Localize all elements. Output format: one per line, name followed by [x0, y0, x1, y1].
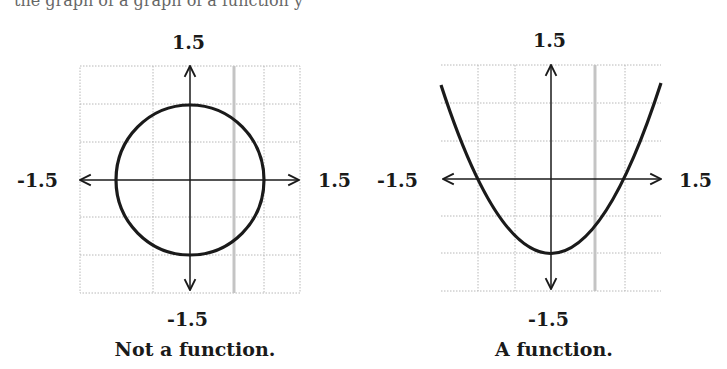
- circle-graph: [0, 0, 727, 369]
- right-left-label: -1.5: [377, 171, 418, 190]
- right-caption: A function.: [495, 340, 613, 359]
- left-left-label: -1.5: [17, 171, 58, 190]
- left-bottom-label: -1.5: [167, 310, 208, 329]
- right-top-label: 1.5: [533, 31, 566, 50]
- left-caption: Not a function.: [115, 340, 276, 359]
- left-top-label: 1.5: [172, 33, 205, 52]
- left-right-label: 1.5: [318, 171, 351, 190]
- right-bottom-label: -1.5: [528, 310, 569, 329]
- right-right-label: 1.5: [679, 171, 712, 190]
